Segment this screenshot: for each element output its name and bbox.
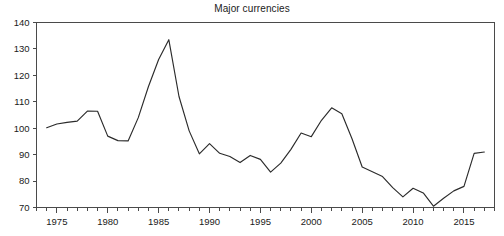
y-tick-label: 120	[14, 70, 30, 81]
series-line-0	[47, 40, 485, 207]
x-tick-label: 1980	[97, 216, 118, 227]
y-tick-label: 140	[14, 17, 30, 28]
x-tick-label: 2015	[453, 216, 474, 227]
y-tick-label: 90	[19, 149, 30, 160]
x-axis-ticks: 197519801985199019952000200520102015	[37, 208, 495, 227]
y-tick-label: 100	[14, 123, 30, 134]
chart-container: Major currencies 708090100110120130140 1…	[0, 0, 504, 236]
x-tick-label: 1985	[148, 216, 169, 227]
data-series-group	[47, 40, 485, 207]
x-tick-label: 2000	[301, 216, 322, 227]
y-tick-label: 130	[14, 43, 30, 54]
y-tick-label: 110	[14, 96, 29, 107]
x-tick-label: 2005	[352, 216, 373, 227]
plot-border	[37, 23, 495, 208]
y-tick-label: 70	[19, 202, 30, 213]
line-chart-plot: 708090100110120130140 197519801985199019…	[0, 0, 504, 236]
plot-frame	[37, 23, 495, 208]
x-tick-label: 2010	[403, 216, 424, 227]
x-tick-label: 1995	[250, 216, 271, 227]
y-axis-ticks: 708090100110120130140	[14, 17, 37, 213]
y-tick-label: 80	[19, 175, 30, 186]
x-tick-label: 1990	[199, 216, 220, 227]
x-tick-label: 1975	[46, 216, 67, 227]
